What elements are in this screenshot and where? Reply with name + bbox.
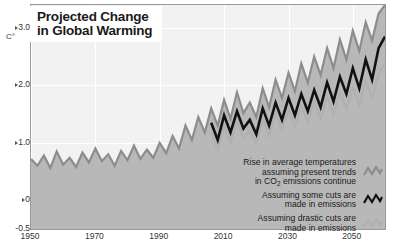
- legend-label-line-2: made in emissions: [258, 224, 356, 234]
- co2-subscript: 2: [277, 180, 281, 187]
- y-tick-label: 1.0: [0, 137, 30, 147]
- legend-glyph-path: [364, 219, 382, 227]
- y-tick-label: 3.0: [0, 22, 30, 32]
- x-tick-label: 1970: [85, 231, 104, 241]
- legend-item-label: Assuming drastic cuts aremade in emissio…: [258, 214, 362, 233]
- legend-glyph-path: [364, 167, 382, 175]
- title-line-2: in Global Warming: [37, 24, 152, 38]
- legend-item: Assuming drastic cuts aremade in emissio…: [188, 214, 384, 233]
- legend-item: Rise in average temperaturesassuming pre…: [188, 158, 384, 187]
- y-tick-text: 1.0: [18, 137, 30, 147]
- page-title: Projected Change in Global Warming: [30, 6, 162, 42]
- y-tick-text: 2.0: [18, 79, 30, 89]
- chart-root: C° 3.02.01.00-0.5 Projected Change in Gl…: [0, 0, 394, 247]
- x-tick-label: 1950: [21, 231, 40, 241]
- chart-legend: Rise in average temperaturesassuming pre…: [188, 158, 384, 237]
- legend-item-label: Rise in average temperaturesassuming pre…: [243, 158, 362, 187]
- legend-item: Assuming some cuts aremade in emissions: [188, 191, 384, 210]
- legend-glyph-path: [364, 195, 382, 203]
- legend-item-label: Assuming some cuts aremade in emissions: [262, 191, 362, 210]
- x-tick-label: 1990: [149, 231, 168, 241]
- y-axis-unit-label: C°: [6, 32, 15, 41]
- y-tick-label: 2.0: [0, 79, 30, 89]
- zigzag-line-icon: [362, 216, 384, 232]
- title-line-1: Projected Change: [37, 10, 152, 24]
- y-tick-text: 3.0: [18, 22, 30, 32]
- legend-label-line-2: made in emissions: [262, 200, 356, 210]
- y-tick-label: 0: [0, 194, 30, 204]
- zigzag-line-icon: [362, 164, 384, 180]
- zigzag-line-icon: [362, 192, 384, 208]
- y-axis: C° 3.02.01.00-0.5: [0, 0, 30, 232]
- legend-label-line-3: in CO2 emissions continue: [243, 177, 356, 187]
